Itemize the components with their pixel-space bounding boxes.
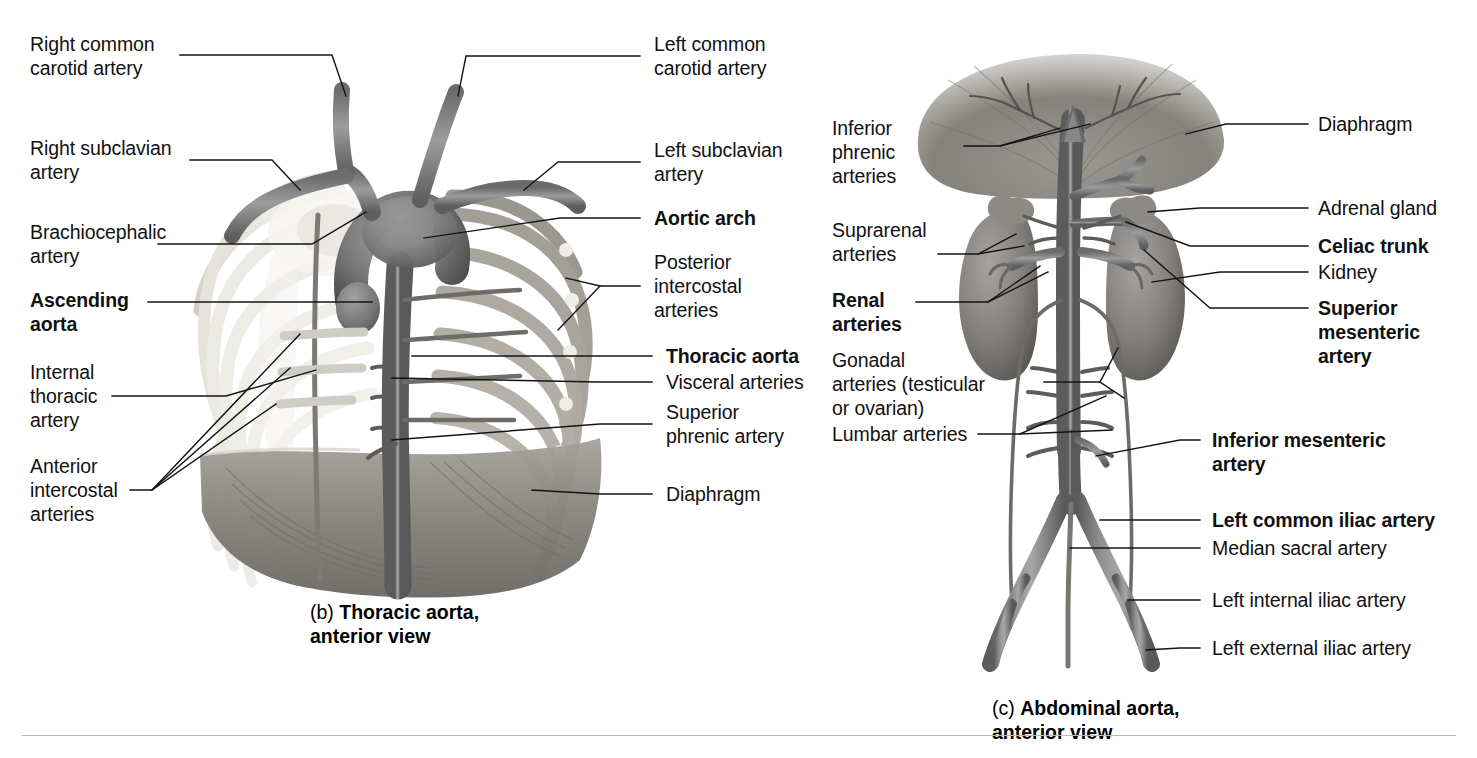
- label-kidney: Kidney: [1318, 260, 1377, 284]
- thoracic-aorta-vessel: [336, 196, 458, 592]
- label-anterior-intercostal-arteries: Anterior intercostal arteries: [30, 454, 118, 526]
- label-brachiocephalic-artery: Brachiocephalic artery: [30, 220, 166, 268]
- leader-superior-phrenic: [392, 424, 652, 440]
- label-left-subclavian-artery: Left subclavian artery: [654, 138, 783, 186]
- label-diaphragm-b: Diaphragm: [666, 482, 760, 506]
- label-celiac-trunk: Celiac trunk: [1318, 234, 1428, 258]
- panel-c-caption-letter: (c): [992, 697, 1020, 719]
- leader-inferior-phrenic: [964, 124, 1090, 146]
- abdominal-aorta-vessel: [1060, 104, 1086, 504]
- panel-c-caption: (c) Abdominal aorta, anterior view: [992, 672, 1179, 744]
- label-visceral-arteries: Visceral arteries: [666, 370, 804, 394]
- leader-left-subclavian: [524, 162, 640, 190]
- leader-celiac-trunk: [1126, 222, 1308, 246]
- label-inferior-mesenteric-artery: Inferior mesenteric artery: [1212, 428, 1386, 476]
- label-left-common-iliac-artery: Left common iliac artery: [1212, 508, 1435, 532]
- anatomy-figure: Right common carotid artery Right subcla…: [0, 0, 1477, 758]
- label-diaphragm-c: Diaphragm: [1318, 112, 1412, 136]
- great-vessels: [232, 90, 578, 236]
- label-median-sacral-artery: Median sacral artery: [1212, 536, 1387, 560]
- panel-c-caption-text: Abdominal aorta, anterior view: [992, 697, 1179, 743]
- rib-cage-right: [200, 175, 372, 582]
- footer-divider: [22, 735, 1456, 736]
- leader-visceral-arteries: [392, 378, 652, 382]
- leader-left-external-iliac: [1146, 648, 1200, 650]
- label-renal-arteries: Renal arteries: [832, 288, 902, 336]
- label-ascending-aorta: Ascending aorta: [30, 288, 129, 336]
- label-inferior-phrenic-arteries: Inferior phrenic arteries: [832, 116, 896, 188]
- leader-superior-mesenteric: [1144, 250, 1308, 308]
- anterior-intercostal-arteries-vessel: [280, 332, 364, 404]
- leader-inferior-mesenteric: [1096, 440, 1200, 456]
- leader-diaphragm-c: [1186, 124, 1308, 134]
- renal-hilum-branches: [990, 264, 1152, 288]
- leader-internal-thoracic: [112, 370, 316, 396]
- leader-anterior-intercostal: [130, 334, 300, 490]
- adrenal-glands: [988, 195, 1157, 224]
- leader-posterior-intercostal: [558, 278, 640, 330]
- leader-right-subclavian: [190, 160, 300, 190]
- sternum: [258, 188, 392, 506]
- panel-b-caption: (b) Thoracic aorta, anterior view: [310, 576, 479, 648]
- suprarenal-arteries-vessel: [1024, 216, 1120, 244]
- diaphragm-shape-b: [200, 438, 601, 598]
- label-right-common-carotid-artery: Right common carotid artery: [30, 32, 155, 80]
- label-thoracic-aorta: Thoracic aorta: [666, 344, 799, 368]
- leader-brachiocephalic: [158, 212, 366, 244]
- posterior-intercostal-arteries-vessel: [404, 290, 526, 420]
- label-suprarenal-arteries: Suprarenal arteries: [832, 218, 926, 266]
- internal-thoracic-artery-vessel: [315, 215, 320, 578]
- leader-diaphragm-b: [532, 490, 652, 494]
- renal-arteries-vessel: [1012, 252, 1130, 266]
- kidney-right-shape: [1106, 210, 1185, 380]
- label-superior-mesenteric-artery: Superior mesenteric artery: [1318, 296, 1420, 368]
- median-sacral-artery-vessel: [1068, 504, 1071, 666]
- label-superior-phrenic-artery: Superior phrenic artery: [666, 400, 784, 448]
- leader-kidney: [1152, 272, 1308, 282]
- leader-aortic-arch: [424, 218, 640, 238]
- leader-renal-arteries: [916, 266, 1048, 302]
- label-left-external-iliac-artery: Left external iliac artery: [1212, 636, 1411, 660]
- lumbar-arteries-vessel: [1028, 368, 1112, 456]
- iliac-arteries-vessel: [990, 500, 1152, 664]
- inferior-mesenteric-artery-vessel: [1078, 440, 1106, 464]
- label-lumbar-arteries: Lumbar arteries: [832, 422, 967, 446]
- label-gonadal-arteries: Gonadal arteries (testicular or ovarian): [832, 348, 985, 420]
- panel-b-caption-letter: (b): [310, 601, 339, 623]
- label-left-common-carotid-artery: Left common carotid artery: [654, 32, 766, 80]
- visceral-arteries-vessel: [372, 367, 392, 430]
- label-adrenal-gland: Adrenal gland: [1318, 196, 1437, 220]
- leader-suprarenal: [938, 234, 1024, 254]
- leader-lumbar: [978, 396, 1112, 434]
- diaphragm-shape-c: [918, 54, 1224, 199]
- gonadal-arteries-vessel: [1011, 300, 1132, 604]
- celiac-and-mesenteric-vessels: [1074, 160, 1150, 246]
- leader-left-common-carotid: [458, 56, 640, 96]
- label-posterior-intercostal-arteries: Posterior intercostal arteries: [654, 250, 742, 322]
- rib-cage-left: [436, 196, 586, 572]
- label-right-subclavian-artery: Right subclavian artery: [30, 136, 171, 184]
- label-aortic-arch: Aortic arch: [654, 206, 756, 230]
- label-internal-thoracic-artery: Internal thoracic artery: [30, 360, 97, 432]
- leader-gonadal: [1044, 348, 1124, 398]
- label-left-internal-iliac-artery: Left internal iliac artery: [1212, 588, 1406, 612]
- leader-adrenal-gland: [1148, 208, 1308, 212]
- superior-phrenic-artery-vessel: [368, 444, 396, 458]
- panel-b-artwork: [200, 90, 601, 598]
- inferior-phrenic-arteries-vessel: [970, 78, 1180, 130]
- kidneys: [959, 210, 1185, 380]
- leader-right-common-carotid: [180, 55, 346, 96]
